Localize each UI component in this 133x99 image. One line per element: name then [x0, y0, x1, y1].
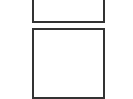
top-box [32, 0, 105, 23]
bottom-box [32, 28, 105, 99]
